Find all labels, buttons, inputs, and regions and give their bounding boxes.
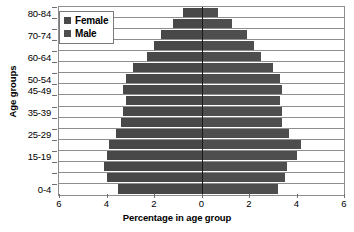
y-axis-tick-label: 0-4 xyxy=(38,184,51,195)
x-axis-tick xyxy=(154,194,155,198)
bar-female xyxy=(173,19,202,28)
x-axis-tick xyxy=(297,194,298,198)
legend-swatch-female-icon xyxy=(64,17,71,24)
x-axis-tick-label: 4 xyxy=(104,198,109,209)
bar-female xyxy=(109,140,202,149)
bar-female xyxy=(154,41,202,50)
bar-male xyxy=(202,63,273,72)
y-axis-tick xyxy=(52,151,57,152)
x-axis-tick-label: 4 xyxy=(294,198,299,209)
y-axis-tick-label: 50-54 xyxy=(28,73,51,84)
y-axis-tick xyxy=(52,173,57,174)
bar-male xyxy=(202,52,261,61)
bar-female xyxy=(107,151,202,160)
bar-female xyxy=(116,129,202,138)
bar-male xyxy=(202,140,302,149)
x-axis-tick-label: 2 xyxy=(151,198,156,209)
bar-female xyxy=(123,85,201,94)
x-axis-tick xyxy=(202,194,203,198)
bar-male xyxy=(202,184,278,194)
y-axis-tick xyxy=(52,40,57,41)
y-axis-tick xyxy=(52,84,57,85)
legend-label-female: Female xyxy=(75,15,108,26)
bar-male xyxy=(202,162,288,171)
x-axis-tick-label: 6 xyxy=(341,198,346,209)
y-axis-tick xyxy=(52,51,57,52)
legend-label-male: Male xyxy=(75,28,96,39)
legend-item-female: Female xyxy=(64,14,108,27)
y-axis-tick xyxy=(52,7,57,8)
y-axis-tick xyxy=(52,162,57,163)
legend-item-male: Male xyxy=(64,27,108,40)
x-axis-tick-label: 0 xyxy=(199,198,204,209)
bar-male xyxy=(202,8,219,17)
x-axis-title: Percentage in age group xyxy=(0,212,354,223)
bar-female xyxy=(161,30,201,39)
x-axis-tick xyxy=(59,194,60,198)
y-axis-tick-label: 35-39 xyxy=(28,107,51,118)
bar-male xyxy=(202,19,233,28)
y-axis-tick xyxy=(52,129,57,130)
y-axis-tick xyxy=(52,118,57,119)
bar-female xyxy=(126,74,202,83)
bar-male xyxy=(202,74,280,83)
zero-axis-line xyxy=(202,7,203,195)
x-axis-tick-label: 6 xyxy=(56,198,61,209)
bar-female xyxy=(123,107,201,116)
bar-male xyxy=(202,30,247,39)
y-axis-tick xyxy=(52,140,57,141)
bar-male xyxy=(202,173,285,182)
bar-female xyxy=(104,162,201,171)
y-axis-tick-label: 45-49 xyxy=(28,84,51,95)
bar-male xyxy=(202,96,280,105)
x-axis-tick-label: 2 xyxy=(246,198,251,209)
bar-female xyxy=(147,52,202,61)
bar-female xyxy=(121,118,202,127)
bar-male xyxy=(202,151,297,160)
legend-swatch-male-icon xyxy=(64,30,71,37)
y-axis-tick xyxy=(52,95,57,96)
population-pyramid-chart: Age groups 80-8470-7460-6450-5445-4935-3… xyxy=(0,0,354,232)
x-axis-tick xyxy=(249,194,250,198)
bar-male xyxy=(202,107,283,116)
y-axis-tick xyxy=(52,62,57,63)
y-axis-tick xyxy=(52,18,57,19)
bar-female xyxy=(107,173,202,182)
bar-female xyxy=(133,63,202,72)
chart-legend: Female Male xyxy=(59,11,114,44)
y-axis-tick-label: 80-84 xyxy=(28,7,51,18)
x-axis-tick xyxy=(107,194,108,198)
y-axis-tick-label: 60-64 xyxy=(28,51,51,62)
bar-female xyxy=(183,8,202,17)
bar-male xyxy=(202,85,283,94)
x-axis-tick-labels: 6420246 xyxy=(58,198,345,212)
y-axis-tick-label: 15-19 xyxy=(28,151,51,162)
y-axis-tick-label: 25-29 xyxy=(28,129,51,140)
y-axis-tick-labels: 80-8470-7460-6450-5445-4935-3925-2915-19… xyxy=(0,6,55,196)
y-axis-tick xyxy=(52,73,57,74)
bar-female xyxy=(118,184,201,194)
bar-female xyxy=(126,96,202,105)
y-axis-tick xyxy=(52,29,57,30)
bar-male xyxy=(202,118,283,127)
x-axis-tick xyxy=(344,194,345,198)
y-axis-tick xyxy=(52,107,57,108)
y-axis-tick-label: 70-74 xyxy=(28,29,51,40)
bar-male xyxy=(202,129,290,138)
y-axis-tick xyxy=(52,184,57,185)
bar-male xyxy=(202,41,254,50)
